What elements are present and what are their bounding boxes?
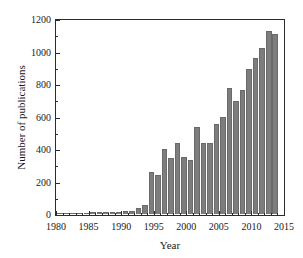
x-axis-tick (154, 211, 155, 216)
bar (233, 101, 239, 214)
x-axis-minor-tick (245, 213, 246, 216)
x-axis-tick (121, 211, 122, 216)
bar (181, 157, 187, 214)
x-axis-minor-tick (69, 213, 70, 216)
x-axis-minor-tick (167, 213, 168, 216)
x-axis-minor-tick (264, 213, 265, 216)
x-axis-tick (284, 211, 285, 216)
plot-area (55, 19, 285, 216)
x-axis-minor-tick (141, 213, 142, 216)
x-axis-minor-tick (199, 213, 200, 216)
bar (266, 31, 272, 214)
publications-bar-chart: Number of publications 02004006008001000… (0, 0, 303, 258)
bar (162, 149, 168, 214)
x-axis-minor-tick (147, 213, 148, 216)
x-axis-tick (89, 211, 90, 216)
x-axis-minor-tick (160, 213, 161, 216)
y-tick-label: 600 (11, 113, 51, 123)
y-axis-minor-tick (55, 69, 58, 70)
bar (272, 34, 278, 214)
x-axis-minor-tick (206, 213, 207, 216)
bar (220, 117, 226, 214)
bar (188, 160, 194, 214)
y-axis-tick (55, 20, 60, 21)
y-axis-minor-tick (55, 101, 58, 102)
bar (240, 90, 246, 214)
bar (201, 143, 207, 215)
x-axis-tick (251, 211, 252, 216)
x-axis-minor-tick (108, 213, 109, 216)
x-axis-minor-tick (193, 213, 194, 216)
y-axis-tick (55, 150, 60, 151)
y-axis-minor-tick (55, 199, 58, 200)
bars-container (57, 21, 283, 214)
y-axis-tick (55, 85, 60, 86)
y-axis-minor-tick (55, 166, 58, 167)
x-tick-label: 2015 (264, 221, 303, 232)
y-tick-label: 1000 (11, 48, 51, 58)
bar (194, 127, 200, 214)
y-axis-tick (55, 118, 60, 119)
bar (155, 175, 161, 214)
y-axis-minor-tick (55, 36, 58, 37)
x-axis-minor-tick (232, 213, 233, 216)
y-tick-label: 1200 (11, 15, 51, 25)
x-axis-minor-tick (82, 213, 83, 216)
bar (214, 124, 220, 214)
x-axis-tick (219, 211, 220, 216)
y-axis-tick (55, 183, 60, 184)
x-axis-minor-tick (277, 213, 278, 216)
x-axis-tick (186, 211, 187, 216)
y-tick-label: 200 (11, 178, 51, 188)
y-tick-label: 800 (11, 80, 51, 90)
x-axis-minor-tick (180, 213, 181, 216)
bar (149, 172, 155, 214)
bar (246, 69, 252, 214)
x-axis-minor-tick (238, 213, 239, 216)
y-tick-label: 0 (11, 210, 51, 220)
x-axis-minor-tick (271, 213, 272, 216)
x-axis-minor-tick (134, 213, 135, 216)
bar (175, 143, 181, 214)
x-axis-tick (56, 211, 57, 216)
bar (227, 88, 233, 214)
x-axis-minor-tick (95, 213, 96, 216)
x-axis-minor-tick (63, 213, 64, 216)
bar (253, 58, 259, 214)
x-axis-minor-tick (212, 213, 213, 216)
y-tick-label: 400 (11, 145, 51, 155)
y-axis-minor-tick (55, 134, 58, 135)
x-axis-minor-tick (258, 213, 259, 216)
x-axis-minor-tick (115, 213, 116, 216)
x-axis-label: Year (55, 239, 285, 251)
x-axis-minor-tick (173, 213, 174, 216)
bar (207, 143, 213, 215)
bar (168, 158, 174, 214)
x-axis-minor-tick (128, 213, 129, 216)
x-axis-minor-tick (102, 213, 103, 216)
x-axis-minor-tick (76, 213, 77, 216)
bar (259, 48, 265, 214)
x-axis-minor-tick (225, 213, 226, 216)
y-axis-tick (55, 53, 60, 54)
